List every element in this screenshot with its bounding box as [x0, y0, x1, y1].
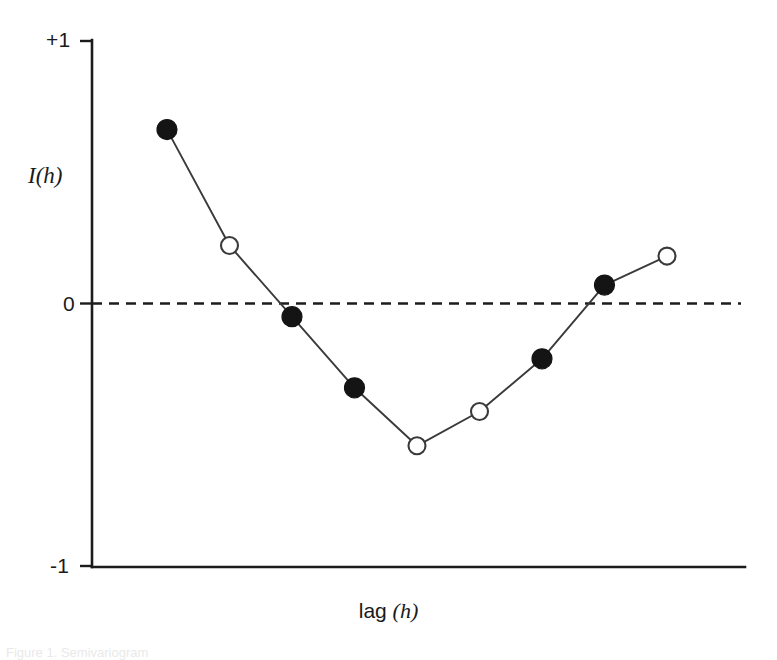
y-axis-tick-label-zero: 0: [63, 292, 75, 316]
data-point-7: [532, 349, 552, 369]
y-axis-tick-label-top: +1: [46, 28, 71, 52]
series-line: [167, 130, 667, 446]
figure-caption: Figure 1. Semivariogram: [6, 645, 148, 660]
x-axis-title-variable: (h): [393, 598, 419, 623]
data-point-2: [221, 237, 238, 254]
data-point-4: [345, 378, 365, 398]
x-axis-title-main: lag: [359, 599, 387, 622]
data-point-6: [471, 403, 488, 420]
x-axis-title: lag (h): [0, 598, 777, 624]
y-axis-title: I(h): [28, 163, 62, 189]
data-point-5: [409, 437, 426, 454]
data-point-9: [659, 248, 676, 265]
y-axis-tick-label-bottom: -1: [50, 554, 69, 578]
data-point-1: [157, 120, 177, 140]
data-point-3: [282, 307, 302, 327]
data-point-8: [595, 275, 615, 295]
